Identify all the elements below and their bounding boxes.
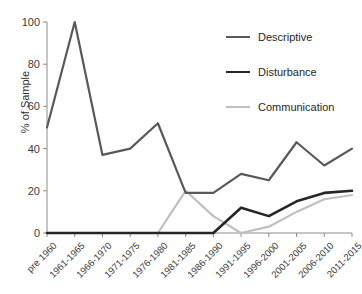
legend-item-disturbance[interactable]: Disturbance bbox=[226, 54, 358, 89]
legend-item-communication[interactable]: Communication bbox=[226, 89, 358, 124]
legend-label: Disturbance bbox=[258, 66, 317, 78]
legend-label: Descriptive bbox=[258, 31, 312, 43]
legend-swatch-icon bbox=[226, 36, 250, 38]
legend-item-descriptive[interactable]: Descriptive bbox=[226, 19, 358, 54]
chart-container: % of Sample 020406080100 pre 19601961-19… bbox=[0, 0, 362, 294]
chart-legend: DescriptiveDisturbanceCommunication bbox=[226, 19, 358, 124]
legend-swatch-icon bbox=[226, 106, 250, 108]
legend-label: Communication bbox=[258, 101, 334, 113]
legend-swatch-icon bbox=[226, 71, 250, 73]
